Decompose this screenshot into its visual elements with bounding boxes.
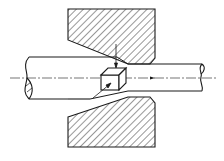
- drawing-die-upper-half: [68, 9, 155, 64]
- diagram-canvas: [0, 0, 224, 161]
- rod-break-mark-right: [200, 64, 203, 91]
- volume-element: [101, 68, 126, 90]
- drawing-die-lower-half: [68, 97, 155, 147]
- drawing-die-diagram: [0, 0, 224, 161]
- output-rod: [128, 64, 204, 91]
- drawing-direction-arrow: [150, 77, 155, 80]
